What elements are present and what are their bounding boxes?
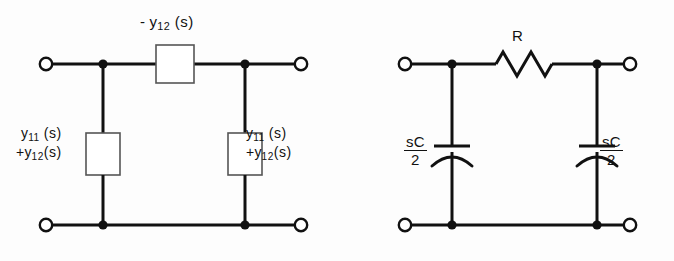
figure-canvas: - y12 (s) y11 (s) +y12(s) y11 (s) +y12(s… (0, 0, 674, 261)
terminal-rc-top-left (399, 58, 411, 70)
terminal-rc-top-right (624, 58, 636, 70)
right-shunt-label-line2: +y12(s) (246, 145, 292, 162)
series-label-main: - y (140, 13, 157, 30)
resistor-label: R (512, 28, 523, 44)
terminal-bottom-right (295, 219, 307, 231)
terminal-top-right (295, 58, 307, 70)
right-shunt-label-line1: y11 (s) (246, 126, 292, 143)
series-label-suffix: (s) (175, 13, 194, 30)
left-shunt-label-line2: +y12(s) (16, 145, 62, 162)
resistor-zigzag (496, 52, 552, 76)
right-shunt-line2-subscript: 12 (262, 151, 274, 162)
right-capacitor-numerator: sC (600, 134, 623, 151)
right-shunt-line1-subscript: 11 (253, 132, 264, 143)
node-dot-rc-top-left (447, 59, 456, 68)
node-dot-bottom-left (98, 220, 107, 229)
left-capacitor-numerator: sC (404, 134, 427, 151)
node-dot-rc-bottom-right (592, 220, 601, 229)
circuit-schematic-svg (0, 0, 674, 261)
left-shunt-line2-main: +y (16, 144, 32, 160)
right-capacitor-label: sC 2 (600, 134, 623, 169)
node-dot-rc-bottom-left (447, 220, 456, 229)
series-label-subscript: 12 (157, 20, 170, 32)
terminal-rc-bottom-right (624, 219, 636, 231)
series-admittance-label: - y12 (s) (140, 14, 194, 32)
right-capacitor-fraction: sC 2 (600, 134, 623, 167)
terminal-rc-bottom-left (399, 219, 411, 231)
right-shunt-line2-suffix: (s) (274, 144, 292, 160)
left-shunt-line2-subscript: 12 (32, 151, 44, 162)
terminal-top-left (40, 58, 52, 70)
left-shunt-admittance-box (86, 133, 120, 175)
right-capacitor-denominator: 2 (600, 151, 623, 167)
node-dot-top-right (240, 59, 249, 68)
right-shunt-admittance-label: y11 (s) +y12(s) (246, 126, 292, 163)
right-shunt-line2-main: +y (246, 144, 262, 160)
left-shunt-line2-suffix: (s) (44, 144, 62, 160)
terminal-bottom-left (40, 219, 52, 231)
left-capacitor-label: sC 2 (404, 134, 427, 169)
node-dot-bottom-right (240, 220, 249, 229)
left-shunt-admittance-label: y11 (s) +y12(s) (16, 126, 62, 163)
left-capacitor-denominator: 2 (404, 151, 427, 167)
node-dot-top-left (98, 59, 107, 68)
series-admittance-box (156, 45, 194, 83)
left-shunt-label-line1: y11 (s) (16, 126, 62, 143)
left-capacitor-fraction: sC 2 (404, 134, 427, 167)
left-shunt-line1-suffix: (s) (44, 125, 62, 141)
node-dot-rc-top-right (592, 59, 601, 68)
right-shunt-line1-suffix: (s) (269, 125, 287, 141)
left-shunt-line1-subscript: 11 (28, 132, 39, 143)
